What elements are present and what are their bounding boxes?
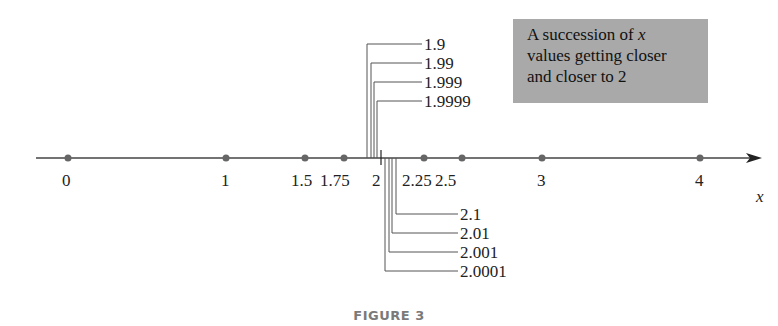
callout-label-1-9999: 1.9999 bbox=[424, 93, 471, 110]
callout-1-99 bbox=[371, 63, 422, 158]
point-0 bbox=[65, 155, 72, 162]
tick-label-1: 1 bbox=[221, 172, 230, 189]
callout-2-01 bbox=[392, 158, 458, 233]
tick-label-2-25: 2.25 bbox=[402, 172, 432, 189]
tick-label-1-75: 1.75 bbox=[320, 172, 350, 189]
point-1-75 bbox=[341, 155, 348, 162]
callout-label-2-001: 2.001 bbox=[460, 244, 498, 261]
tick-label-1-5: 1.5 bbox=[291, 172, 312, 189]
axis-variable-label: x bbox=[756, 187, 764, 207]
tick-label-2: 2 bbox=[372, 172, 381, 189]
callout-label-1-999: 1.999 bbox=[424, 74, 462, 91]
point-1 bbox=[223, 155, 230, 162]
point-1-5 bbox=[302, 155, 309, 162]
tick-label-3: 3 bbox=[537, 172, 546, 189]
tick-label-2-5: 2.5 bbox=[435, 172, 456, 189]
callouts-above bbox=[367, 44, 422, 158]
annotation-line-3: and closer to 2 bbox=[527, 66, 708, 87]
callout-1-9999 bbox=[377, 101, 422, 158]
tick-label-4: 4 bbox=[695, 172, 704, 189]
callout-label-2-01: 2.01 bbox=[460, 225, 490, 242]
callout-label-2-1: 2.1 bbox=[460, 206, 481, 223]
annotation-box: A succession of x values getting closer … bbox=[513, 19, 708, 103]
annotation-line-2: values getting closer bbox=[527, 45, 708, 66]
callout-label-1-99: 1.99 bbox=[424, 55, 454, 72]
tick-label-0: 0 bbox=[62, 172, 71, 189]
callout-label-1-9: 1.9 bbox=[424, 36, 445, 53]
callout-1-999 bbox=[374, 82, 422, 158]
annotation-line-1: A succession of x bbox=[527, 24, 708, 45]
point-2-25 bbox=[421, 155, 428, 162]
point-2-5 bbox=[459, 155, 466, 162]
point-3 bbox=[539, 155, 546, 162]
figure-caption: FIGURE 3 bbox=[0, 308, 778, 323]
point-4 bbox=[697, 155, 704, 162]
callout-label-2-0001: 2.0001 bbox=[460, 263, 507, 280]
